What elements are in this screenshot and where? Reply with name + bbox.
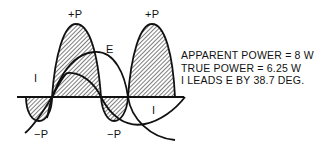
power-info-block: APPARENT POWER = 8 W TRUE POWER = 6.25 W… (181, 49, 314, 87)
label-positive-power-1: +P (68, 8, 82, 20)
phase-lead-text: I LEADS E BY 38.7 DEG. (181, 74, 314, 87)
label-current-i-2: I (152, 104, 155, 116)
label-positive-power-2: +P (145, 8, 159, 20)
label-negative-power-2: −P (107, 128, 121, 140)
label-voltage-e: E (106, 43, 114, 55)
negative-power-lobe-2 (101, 97, 128, 121)
label-current-i-1: I (34, 72, 37, 84)
apparent-power-text: APPARENT POWER = 8 W (181, 49, 314, 62)
label-negative-power-1: −P (34, 128, 48, 140)
positive-power-lobe-2 (128, 24, 175, 97)
true-power-text: TRUE POWER = 6.25 W (181, 62, 314, 75)
